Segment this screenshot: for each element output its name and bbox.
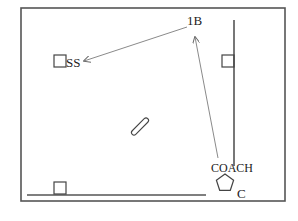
first-base-square-icon bbox=[222, 55, 234, 67]
pentagon-marker-icon bbox=[216, 174, 233, 190]
throw-arrow-1b-to-ss bbox=[84, 27, 187, 61]
coach-label: COACH bbox=[211, 161, 253, 175]
baseball-play-diagram: SS 1B COACH C bbox=[0, 0, 298, 221]
third-base-square-icon bbox=[54, 182, 66, 194]
shortstop-label: SS bbox=[66, 55, 80, 70]
throw-arrow-coach-to-1b bbox=[195, 37, 218, 158]
bat-icon bbox=[130, 117, 149, 136]
catcher-label: C bbox=[237, 186, 246, 201]
first-base-label: 1B bbox=[187, 13, 203, 28]
shortstop-square-icon bbox=[54, 55, 66, 67]
